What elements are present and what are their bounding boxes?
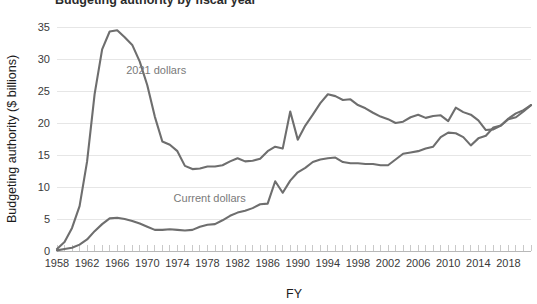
y-tick-label-10: 10 xyxy=(38,181,50,193)
y-tick-label-30: 30 xyxy=(38,53,50,65)
x-tick-label-2002: 2002 xyxy=(376,257,400,269)
line-chart-figure: Budgeting authority by fiscal year 05101… xyxy=(0,0,537,304)
y-tick-label-20: 20 xyxy=(38,117,50,129)
x-tick-label-1962: 1962 xyxy=(75,257,99,269)
y-tick-label-35: 35 xyxy=(38,21,50,33)
x-tick-label-1966: 1966 xyxy=(105,257,129,269)
x-tick-label-1970: 1970 xyxy=(135,257,159,269)
x-tick-label-2014: 2014 xyxy=(466,257,490,269)
x-tick-label-1958: 1958 xyxy=(45,257,69,269)
y-axis-title: Budgeting authority ($ billions) xyxy=(5,55,19,223)
chart-container: Budgeting authority by fiscal year 05101… xyxy=(0,0,537,304)
x-tick-label-1974: 1974 xyxy=(165,257,189,269)
series-label-1: 2021 dollars xyxy=(126,64,186,76)
x-tick-label-1982: 1982 xyxy=(225,257,249,269)
x-axis-title: FY xyxy=(286,287,303,301)
x-tick-label-1994: 1994 xyxy=(316,257,340,269)
series-label-2: Current dollars xyxy=(174,192,247,204)
x-tick-label-1978: 1978 xyxy=(195,257,219,269)
x-tick-label-2018: 2018 xyxy=(496,257,520,269)
x-tick-label-1990: 1990 xyxy=(286,257,310,269)
y-tick-label-0: 0 xyxy=(44,245,50,257)
y-tick-label-15: 15 xyxy=(38,149,50,161)
y-tick-label-5: 5 xyxy=(44,213,50,225)
x-tick-label-2006: 2006 xyxy=(406,257,430,269)
x-tick-label-2010: 2010 xyxy=(436,257,460,269)
y-tick-label-25: 25 xyxy=(38,85,50,97)
chart-title: Budgeting authority by fiscal year xyxy=(55,0,257,7)
x-tick-label-1986: 1986 xyxy=(255,257,279,269)
x-tick-label-1998: 1998 xyxy=(346,257,370,269)
